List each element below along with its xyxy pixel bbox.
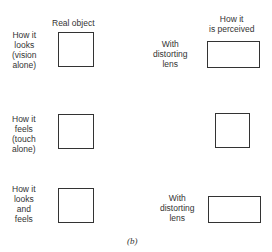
row2-real-box <box>58 114 94 149</box>
header-perceived: How it is perceived <box>209 14 254 34</box>
row3-perceived-box <box>208 196 261 223</box>
row1-right-label: With distorting lens <box>153 39 188 69</box>
row3-real-box <box>58 188 94 223</box>
row3-right-label: With distorting lens <box>160 193 195 223</box>
header-real-object: Real object <box>52 18 95 28</box>
row3-left-label: How it looks and feels <box>12 184 36 224</box>
row1-real-box <box>58 32 94 67</box>
row2-left-label: How it feels (touch alone) <box>12 114 36 154</box>
row1-perceived-box <box>207 41 260 68</box>
row2-perceived-box <box>215 113 250 148</box>
figure-caption: (b) <box>127 236 138 246</box>
row1-left-label: How it looks (vision alone) <box>12 30 37 70</box>
